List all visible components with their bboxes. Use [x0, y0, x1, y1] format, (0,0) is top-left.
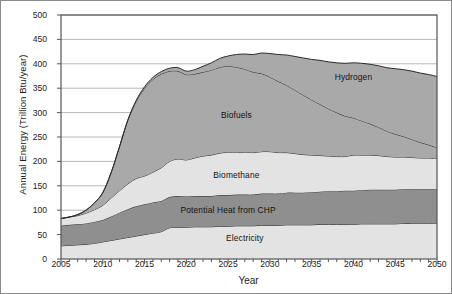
area-bands: [61, 53, 437, 259]
chart-figure: Annual Energy (Trillion Btu/year) 050100…: [0, 0, 452, 294]
series-label: Hydrogen: [335, 72, 373, 82]
series-label: Biomethane: [213, 170, 259, 180]
stacked-area-plot: [1, 1, 452, 294]
series-label: Potential Heat from CHP: [181, 205, 276, 215]
series-label: Biofuels: [221, 110, 252, 120]
series-label: Electricity: [226, 233, 263, 243]
